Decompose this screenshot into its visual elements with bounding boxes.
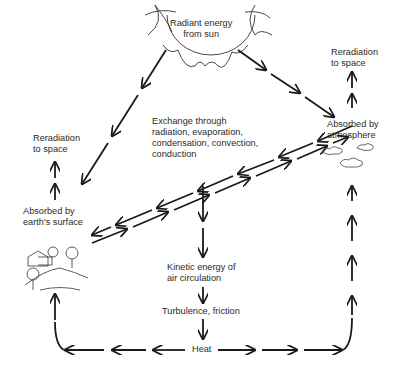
reradiation-right-line1: Reradiation	[331, 47, 378, 58]
surface-line1: Absorbed by	[23, 206, 83, 217]
sun-to-atmosphere-arrow-1	[238, 50, 266, 70]
exchange-line2: radiation, evaporation,	[152, 127, 258, 138]
clouds-icon	[322, 144, 373, 168]
sun-label-line2: from sun	[170, 29, 232, 40]
landscape-icon	[25, 247, 88, 290]
atmosphere-line1: Absorbed by	[327, 119, 379, 130]
heat-label: Heat	[192, 344, 211, 355]
exchange-line1: Exchange through	[152, 116, 258, 127]
exchange-line3: condensation, convection,	[152, 138, 258, 149]
exchange-line4: conduction	[152, 149, 258, 160]
reradiation-right-label: Reradiation to space	[331, 47, 378, 69]
sun-label: Radiant energy from sun	[170, 18, 232, 40]
sun-label-line1: Radiant energy	[170, 18, 232, 29]
surface-line2: earth's surface	[23, 217, 83, 228]
reradiation-left-line2: to space	[33, 144, 80, 155]
reradiation-right-line2: to space	[331, 58, 378, 69]
sun-to-surface-arrow-1	[142, 50, 166, 88]
kinetic-line1: Kinetic energy of	[167, 262, 235, 273]
kinetic-line2: air circulation	[167, 273, 235, 284]
exchange-label: Exchange through radiation, evaporation,…	[152, 116, 258, 160]
turbulence-label: Turbulence, friction	[162, 306, 240, 317]
atmosphere-line2: atmosphere	[327, 130, 379, 141]
surface-label: Absorbed by earth's surface	[23, 206, 83, 228]
reradiation-left-line1: Reradiation	[33, 133, 80, 144]
atmosphere-label: Absorbed by atmosphere	[327, 119, 379, 141]
reradiation-left-label: Reradiation to space	[33, 133, 80, 155]
kinetic-label: Kinetic energy of air circulation	[167, 262, 235, 284]
